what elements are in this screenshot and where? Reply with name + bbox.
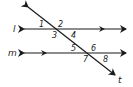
label-l: l bbox=[13, 24, 16, 34]
angle-3: 3 bbox=[52, 31, 57, 40]
angle-5: 5 bbox=[71, 44, 76, 53]
angle-8: 8 bbox=[103, 55, 108, 64]
parallel-lines-diagram: l m t 1 2 3 4 5 6 7 8 bbox=[0, 0, 133, 87]
angle-6: 6 bbox=[91, 44, 96, 53]
line-t bbox=[28, 7, 115, 75]
label-t: t bbox=[118, 75, 122, 85]
angle-7: 7 bbox=[83, 55, 89, 64]
label-m: m bbox=[8, 48, 17, 58]
angle-1: 1 bbox=[39, 20, 44, 29]
angle-2: 2 bbox=[58, 20, 63, 29]
angle-4: 4 bbox=[71, 31, 76, 40]
